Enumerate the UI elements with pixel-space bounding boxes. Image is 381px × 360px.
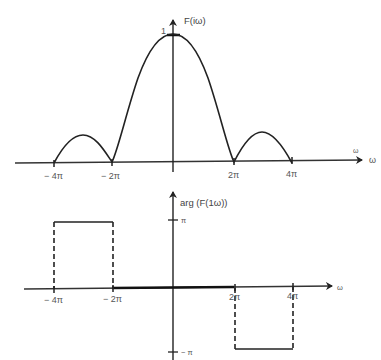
- top-x-axis: [15, 160, 362, 163]
- top-tick-label-2pi: 2π: [228, 170, 239, 180]
- top-x-axis-label: ω: [369, 155, 376, 165]
- bottom-x-axis-label: ω: [337, 283, 343, 292]
- neg-pi-label: − π: [181, 348, 193, 357]
- bottom-tick-label-neg4pi: − 4π: [44, 295, 63, 305]
- phase-zero-segment: [112, 287, 234, 288]
- bottom-tick-label-2pi: 2π: [229, 292, 240, 302]
- top-tick-label-neg2pi: − 2π: [101, 171, 120, 181]
- phase-plot: − 4π − 2π 2π 4π arg (F(1ω)) π − π ω: [24, 192, 343, 360]
- peak-value-label: 1: [161, 26, 166, 36]
- top-x-axis-label-faint: ω: [353, 147, 359, 154]
- magnitude-plot: − 4π − 2π 2π 4π F(iω) 1 ω ω: [15, 15, 376, 181]
- bottom-tick-label-neg2pi: − 2π: [103, 294, 122, 304]
- pi-label: π: [181, 216, 186, 225]
- figure: − 4π − 2π 2π 4π F(iω) 1 ω ω − 4π − 2π: [0, 0, 381, 360]
- bottom-tick-label-4pi: 4π: [287, 291, 298, 301]
- top-y-axis-label: F(iω): [184, 15, 206, 26]
- top-tick-label-4pi: 4π: [286, 169, 297, 179]
- bottom-y-axis-label: arg (F(1ω)): [180, 197, 228, 208]
- top-tick-label-neg4pi: − 4π: [44, 171, 63, 181]
